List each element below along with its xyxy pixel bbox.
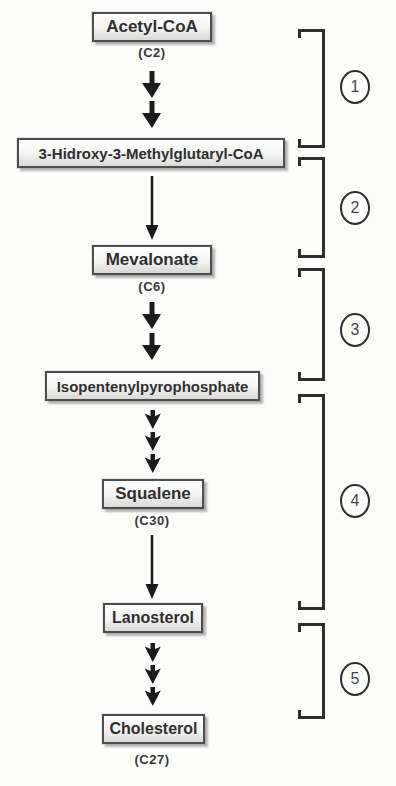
- node-acetyl-coa: Acetyl-CoA: [92, 12, 212, 42]
- pathway-diagram: Acetyl-CoA (C2) 3-Hidroxy-3-Methylglutar…: [0, 0, 396, 786]
- arrow-down-icon: [144, 176, 160, 240]
- node-cholesterol: Cholesterol: [102, 714, 205, 744]
- node-squalene: Squalene: [102, 479, 204, 509]
- step-number-5: 5: [340, 662, 370, 696]
- step-bracket-5: [298, 623, 325, 719]
- step-number-1: 1: [340, 70, 370, 104]
- step-number-4: 4: [340, 484, 370, 518]
- arrow-down-icon: [141, 302, 163, 329]
- step-bracket-1: [298, 29, 325, 148]
- arrow-down-icon: [144, 643, 161, 662]
- step-bracket-4: [298, 394, 325, 610]
- node-isopentenylpyrophosphate: Isopentenylpyrophosphate: [45, 371, 260, 401]
- arrow-down-icon: [144, 454, 161, 473]
- arrow-down-icon: [141, 101, 163, 128]
- node-lanosterol: Lanosterol: [103, 603, 203, 633]
- carbon-count-c30: (C30): [92, 513, 212, 528]
- arrow-down-icon: [144, 687, 161, 706]
- step-number-3: 3: [340, 313, 370, 347]
- step-bracket-2: [298, 157, 325, 258]
- step-bracket-3: [298, 268, 325, 381]
- arrow-down-icon: [144, 432, 161, 451]
- node-hmg-coa: 3-Hidroxy-3-Methylglutaryl-CoA: [17, 138, 285, 168]
- arrow-down-icon: [141, 71, 163, 98]
- carbon-count-c6: (C6): [92, 279, 212, 294]
- arrow-down-icon: [144, 410, 161, 429]
- carbon-count-c2: (C2): [92, 45, 212, 60]
- arrow-down-icon: [141, 333, 163, 360]
- arrow-down-icon: [144, 665, 161, 684]
- step-number-2: 2: [340, 191, 370, 225]
- arrow-down-icon: [144, 535, 160, 599]
- carbon-count-c27: (C27): [92, 752, 212, 767]
- node-mevalonate: Mevalonate: [92, 245, 212, 275]
